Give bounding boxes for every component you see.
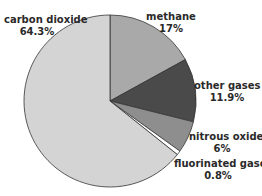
slice-name: carbon dioxide bbox=[4, 14, 70, 26]
slice-value: 0.8% bbox=[174, 170, 262, 182]
slice-value: 17% bbox=[146, 23, 196, 35]
label-carbon-dioxide: carbon dioxide 64.3% bbox=[4, 14, 70, 38]
slice-name: methane bbox=[146, 11, 196, 23]
slice-name: other gases bbox=[194, 80, 260, 92]
slice-name: fluorinated gases bbox=[174, 158, 262, 170]
label-nitrous-oxide: nitrous oxide 6% bbox=[189, 131, 255, 155]
label-other-gases: other gases 11.9% bbox=[194, 80, 260, 104]
slice-value: 11.9% bbox=[194, 92, 260, 104]
slice-value: 64.3% bbox=[4, 26, 70, 38]
slice-value: 6% bbox=[189, 143, 255, 155]
label-methane: methane 17% bbox=[146, 11, 196, 35]
slice-name: nitrous oxide bbox=[189, 131, 255, 143]
label-fluorinated-gases: fluorinated gases 0.8% bbox=[174, 158, 262, 182]
